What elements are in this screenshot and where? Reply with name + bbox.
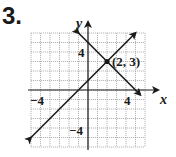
intersection-label: (2, 3)	[112, 54, 140, 69]
x-tick-label-4: 4	[124, 93, 131, 108]
x-axis-label: x	[159, 92, 167, 107]
y-axis-label: y	[74, 16, 83, 31]
x-tick-label-neg4: −4	[30, 93, 44, 108]
coordinate-graph: y x −4 4 4 −4 (2, 3)	[0, 0, 176, 157]
intersection-point	[104, 59, 109, 64]
y-tick-label-4: 4	[78, 45, 85, 60]
y-tick-label-neg4: −4	[69, 123, 83, 138]
